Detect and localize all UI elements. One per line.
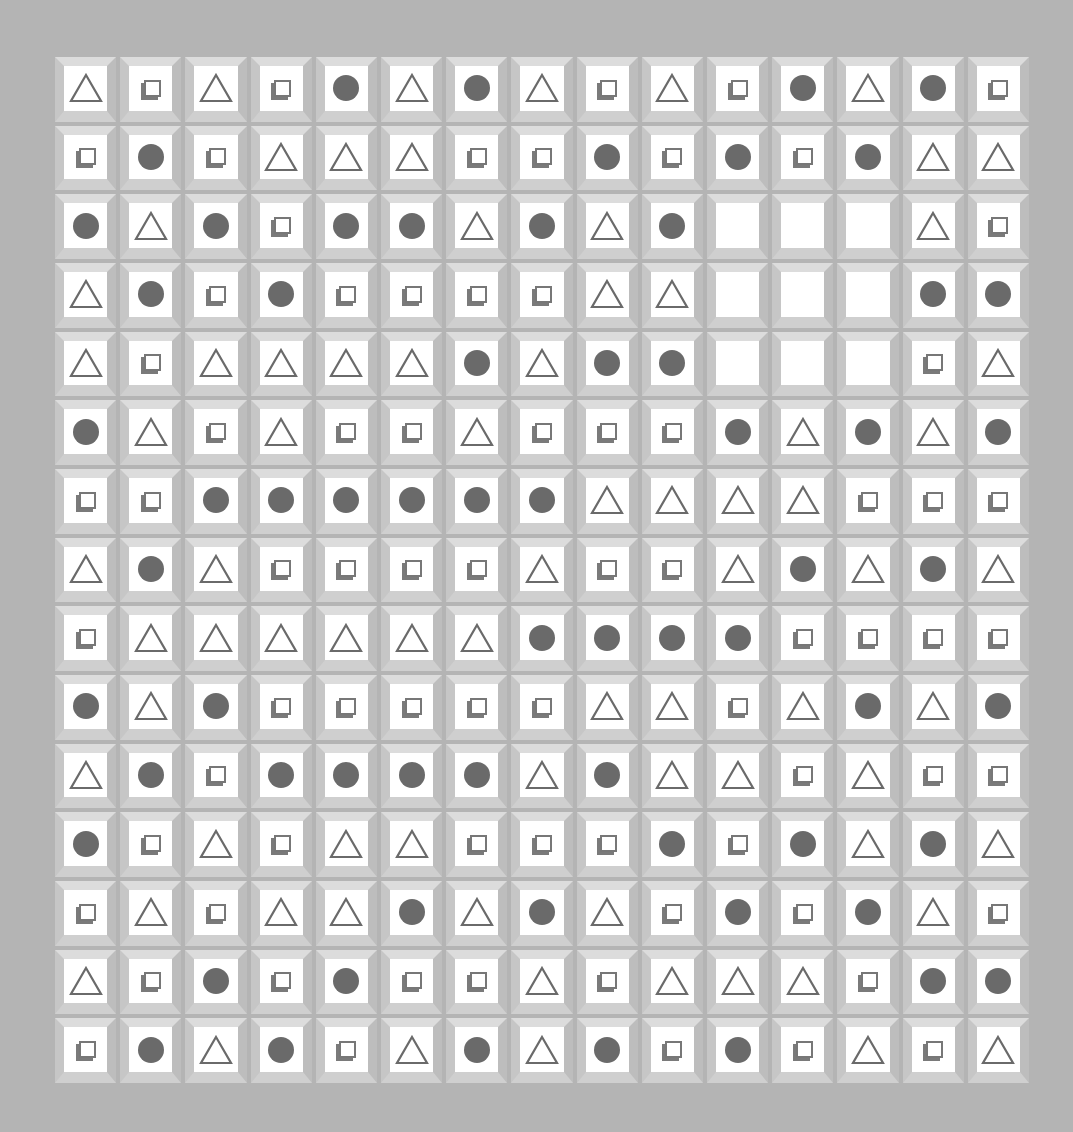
tile-triangle[interactable]	[772, 400, 833, 465]
tile-square[interactable]	[903, 744, 964, 809]
tile-square[interactable]	[251, 194, 312, 259]
tile-triangle[interactable]	[185, 812, 246, 877]
tile-square[interactable]	[577, 538, 638, 603]
tile-circle[interactable]	[642, 194, 703, 259]
tile-square[interactable]	[707, 675, 768, 740]
tile-triangle[interactable]	[251, 606, 312, 671]
tile-circle[interactable]	[577, 1018, 638, 1083]
empty-tile[interactable]	[837, 194, 898, 259]
tile-circle[interactable]	[511, 606, 572, 671]
tile-circle[interactable]	[316, 194, 377, 259]
tile-circle[interactable]	[707, 881, 768, 946]
tile-square[interactable]	[251, 57, 312, 122]
tile-circle[interactable]	[968, 400, 1029, 465]
tile-triangle[interactable]	[642, 57, 703, 122]
tile-circle[interactable]	[251, 263, 312, 328]
tile-square[interactable]	[185, 126, 246, 191]
tile-triangle[interactable]	[381, 126, 442, 191]
tile-triangle[interactable]	[707, 744, 768, 809]
tile-circle[interactable]	[903, 57, 964, 122]
tile-square[interactable]	[642, 400, 703, 465]
tile-circle[interactable]	[381, 194, 442, 259]
tile-triangle[interactable]	[316, 812, 377, 877]
tile-circle[interactable]	[772, 538, 833, 603]
tile-triangle[interactable]	[55, 263, 116, 328]
tile-square[interactable]	[381, 675, 442, 740]
tile-triangle[interactable]	[381, 606, 442, 671]
tile-square[interactable]	[251, 812, 312, 877]
tile-square[interactable]	[316, 675, 377, 740]
tile-circle[interactable]	[251, 1018, 312, 1083]
tile-circle[interactable]	[903, 538, 964, 603]
tile-circle[interactable]	[381, 469, 442, 534]
tile-square[interactable]	[642, 126, 703, 191]
tile-circle[interactable]	[642, 332, 703, 397]
tile-square[interactable]	[120, 332, 181, 397]
tile-circle[interactable]	[185, 194, 246, 259]
tile-triangle[interactable]	[316, 126, 377, 191]
tile-circle[interactable]	[707, 126, 768, 191]
tile-triangle[interactable]	[577, 263, 638, 328]
tile-triangle[interactable]	[120, 194, 181, 259]
tile-square[interactable]	[185, 744, 246, 809]
tile-circle[interactable]	[446, 332, 507, 397]
empty-tile[interactable]	[707, 263, 768, 328]
tile-triangle[interactable]	[968, 812, 1029, 877]
tile-triangle[interactable]	[968, 538, 1029, 603]
tile-triangle[interactable]	[903, 881, 964, 946]
tile-square[interactable]	[772, 881, 833, 946]
tile-circle[interactable]	[707, 1018, 768, 1083]
tile-circle[interactable]	[185, 469, 246, 534]
tile-triangle[interactable]	[511, 57, 572, 122]
tile-square[interactable]	[837, 950, 898, 1015]
tile-triangle[interactable]	[55, 744, 116, 809]
tile-triangle[interactable]	[577, 675, 638, 740]
tile-square[interactable]	[120, 950, 181, 1015]
empty-tile[interactable]	[837, 263, 898, 328]
tile-square[interactable]	[642, 538, 703, 603]
tile-square[interactable]	[446, 812, 507, 877]
tile-triangle[interactable]	[381, 1018, 442, 1083]
tile-circle[interactable]	[55, 675, 116, 740]
tile-triangle[interactable]	[55, 332, 116, 397]
tile-triangle[interactable]	[511, 538, 572, 603]
tile-triangle[interactable]	[120, 400, 181, 465]
tile-circle[interactable]	[707, 606, 768, 671]
tile-circle[interactable]	[55, 400, 116, 465]
tile-circle[interactable]	[381, 881, 442, 946]
tile-square[interactable]	[968, 606, 1029, 671]
tile-square[interactable]	[772, 744, 833, 809]
tile-square[interactable]	[446, 538, 507, 603]
tile-circle[interactable]	[577, 332, 638, 397]
tile-circle[interactable]	[511, 469, 572, 534]
tile-triangle[interactable]	[837, 538, 898, 603]
tile-triangle[interactable]	[251, 881, 312, 946]
tile-circle[interactable]	[120, 744, 181, 809]
tile-circle[interactable]	[120, 263, 181, 328]
tile-triangle[interactable]	[55, 57, 116, 122]
tile-square[interactable]	[120, 57, 181, 122]
tile-square[interactable]	[316, 538, 377, 603]
tile-triangle[interactable]	[968, 332, 1029, 397]
tile-triangle[interactable]	[577, 469, 638, 534]
tile-square[interactable]	[381, 263, 442, 328]
tile-square[interactable]	[251, 950, 312, 1015]
tile-square[interactable]	[707, 57, 768, 122]
tile-triangle[interactable]	[185, 538, 246, 603]
tile-circle[interactable]	[707, 400, 768, 465]
tile-triangle[interactable]	[120, 675, 181, 740]
tile-triangle[interactable]	[577, 881, 638, 946]
tile-square[interactable]	[903, 606, 964, 671]
tile-circle[interactable]	[642, 606, 703, 671]
tile-triangle[interactable]	[316, 881, 377, 946]
tile-circle[interactable]	[185, 675, 246, 740]
tile-circle[interactable]	[577, 606, 638, 671]
tile-triangle[interactable]	[316, 332, 377, 397]
tile-square[interactable]	[381, 538, 442, 603]
tile-circle[interactable]	[903, 950, 964, 1015]
tile-circle[interactable]	[837, 881, 898, 946]
tile-circle[interactable]	[511, 881, 572, 946]
tile-circle[interactable]	[446, 744, 507, 809]
tile-circle[interactable]	[772, 57, 833, 122]
tile-triangle[interactable]	[55, 538, 116, 603]
